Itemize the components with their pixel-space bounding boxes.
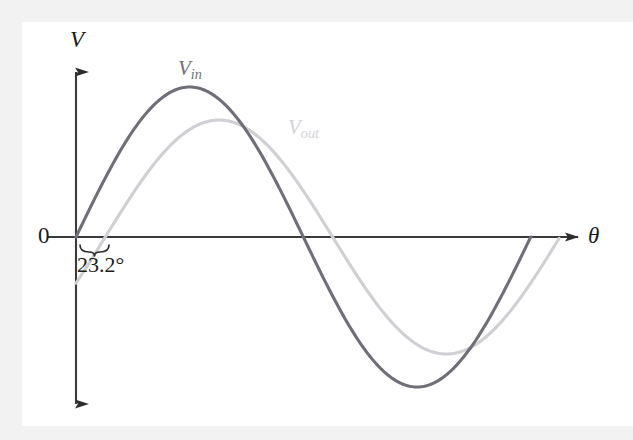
theta-axis-label: θ [588,224,599,247]
v-in-curve-label: Vin [178,58,202,81]
phase-shift-label: 23.2° [77,254,124,276]
v-in-label-base: V [178,56,191,80]
v-in-label-subscript: in [191,66,202,82]
v-out-label-subscript: out [301,125,319,141]
v-out-label-base: V [288,115,301,139]
plot-svg [0,0,633,440]
v-axis-label: V [70,28,84,51]
figure-container: V θ 0 Vin Vout 23.2° [0,0,633,440]
v-out-curve-label: Vout [288,117,319,140]
origin-label: 0 [38,224,50,247]
